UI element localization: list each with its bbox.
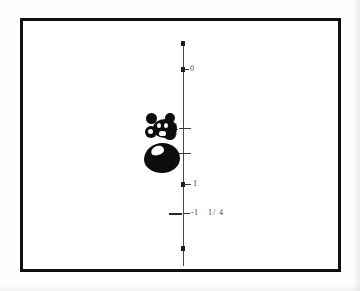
ink-blob-upper-void-bottomleft [148,129,153,134]
ink-blob-upper-void-right [164,123,168,128]
tick-label-neg-one-fraction-denominator: 4 [219,208,223,217]
tick-label-0: 0 [190,64,194,73]
ink-blob-upper-void-center [159,131,166,136]
tick-stroke-three-quarters [179,128,191,129]
scanned-page: 0 3 4 1 4 1 -1 1 / 4 [0,0,360,291]
tick-label-neg-one-fraction-slash: / [213,208,215,217]
tick-stroke-1 [184,184,191,185]
ink-blob-upper-mass-topleft [146,113,157,124]
figure-frame-border: 0 3 4 1 4 1 -1 1 / 4 [20,18,341,272]
scan-edge-artifact-right [352,0,360,291]
tick-stroke-left-neg-one-and-one-quarter [169,213,182,215]
tick-label-neg-one-whole: -1 [191,208,198,217]
tick-stroke-0 [184,69,189,70]
axis-end-cap-bottom [181,246,185,251]
tick-label-neg-one-fraction-numerator: 1 [208,208,212,217]
ink-blob-upper-void-left [157,123,161,128]
ink-blob-upper [145,113,179,141]
tick-stroke-one-quarter [179,153,191,154]
axis-end-cap-top [181,41,185,46]
tick-label-1: 1 [193,179,197,188]
ink-blob-upper-mass-topright [165,113,175,123]
scan-edge-artifact-bottom [0,284,360,291]
ink-blob-lower [144,143,180,173]
tick-stroke-neg-one-and-one-quarter [184,213,190,214]
